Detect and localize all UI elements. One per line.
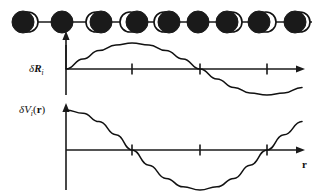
potential-axis-label: δVi(r) — [19, 103, 46, 118]
atom — [187, 11, 209, 33]
atom — [90, 11, 112, 33]
atom — [284, 11, 306, 33]
atom — [248, 11, 270, 33]
displacement-axis-label: δRi — [29, 62, 44, 77]
y-axis — [62, 103, 69, 190]
atom — [51, 11, 73, 33]
x-axis — [66, 65, 305, 72]
physics-figure: δRi δVi(r) — [0, 0, 322, 195]
figure-canvas: δRi δVi(r) — [0, 0, 322, 195]
atomic-chain — [12, 11, 312, 33]
atom — [158, 11, 180, 33]
displacement-plot: δRi — [29, 31, 305, 95]
potential-plot: δVi(r) r — [19, 103, 307, 190]
atom — [12, 11, 34, 33]
atom — [126, 11, 148, 33]
atom — [216, 11, 238, 33]
potential-x-axis-label: r — [302, 158, 307, 170]
